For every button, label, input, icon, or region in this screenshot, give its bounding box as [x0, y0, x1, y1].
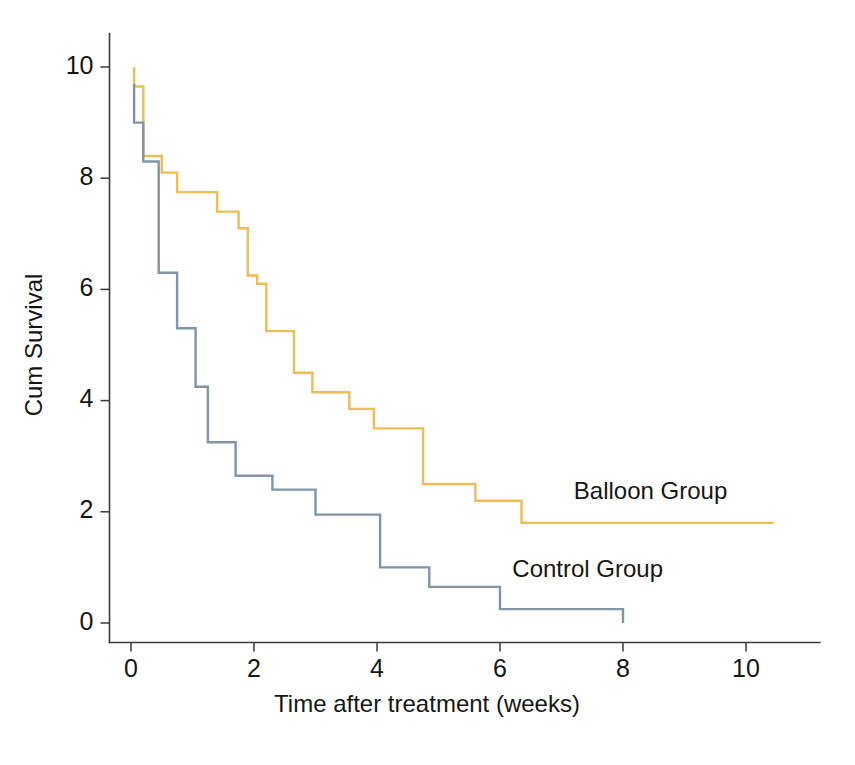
- x-axis-title: Time after treatment (weeks): [274, 690, 580, 717]
- y-tick-label: 0: [80, 607, 94, 635]
- y-tick-label: 8: [80, 162, 94, 190]
- y-tick-label: 10: [66, 51, 94, 79]
- y-tick-label: 2: [80, 495, 94, 523]
- x-tick-label: 0: [124, 654, 138, 682]
- series-label-balloon-group: Balloon Group: [574, 477, 727, 504]
- y-axis-title: Cum Survival: [20, 274, 47, 417]
- y-tick-label: 4: [80, 384, 94, 412]
- series-group: [134, 67, 774, 623]
- y-tick-label: 6: [80, 273, 94, 301]
- x-tick-label: 8: [616, 654, 630, 682]
- axes-group: [110, 34, 820, 643]
- series-line-control-group: [134, 84, 623, 623]
- series-label-control-group: Control Group: [512, 555, 663, 582]
- km-survival-plot: 0246810 0246810 Time after treatment (we…: [0, 0, 855, 765]
- x-axis-ticks: 0246810: [124, 643, 760, 682]
- series-annotations: Balloon GroupControl Group: [512, 477, 727, 582]
- x-tick-label: 2: [247, 654, 261, 682]
- y-axis-ticks: 0246810: [66, 51, 110, 635]
- x-tick-label: 4: [370, 654, 384, 682]
- x-tick-label: 6: [493, 654, 507, 682]
- x-tick-label: 10: [732, 654, 760, 682]
- chart-figure: 0246810 0246810 Time after treatment (we…: [0, 0, 855, 765]
- series-line-balloon-group: [134, 67, 774, 523]
